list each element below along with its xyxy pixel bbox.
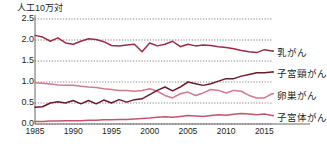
x-axis-tick-label: 1990 <box>58 126 88 136</box>
series-line <box>35 83 272 98</box>
x-axis-tick-label: 2015 <box>249 126 279 136</box>
legend-label-3: 卵巣がん <box>277 88 317 102</box>
legend-label-1: 乳がん <box>277 45 307 59</box>
series-line <box>35 114 272 122</box>
legend-label-4: 子宮体がん <box>277 110 327 124</box>
x-axis-tick-label: 1985 <box>20 126 50 136</box>
x-axis-tick-label: 2000 <box>135 126 165 136</box>
x-axis-tick-label: 1995 <box>96 126 126 136</box>
legend-label-2: 子宮頸がん <box>277 66 327 80</box>
x-axis-tick-label: 2005 <box>173 126 203 136</box>
x-axis-tick-label: 2010 <box>211 126 241 136</box>
series-line <box>35 35 272 52</box>
